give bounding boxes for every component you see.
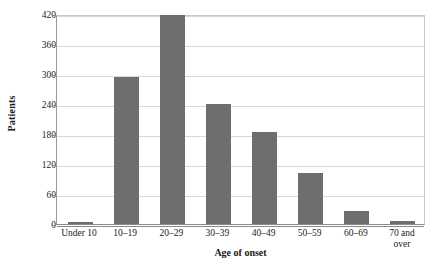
bar[interactable] bbox=[344, 211, 369, 225]
gridline bbox=[57, 226, 424, 227]
y-axis-title-label: Patients bbox=[6, 95, 17, 131]
bar[interactable] bbox=[390, 221, 415, 225]
bar[interactable] bbox=[68, 222, 93, 225]
plot-area bbox=[56, 15, 425, 225]
bar[interactable] bbox=[160, 15, 185, 224]
bars-layer bbox=[57, 16, 424, 224]
y-axis-title: Patients bbox=[0, 0, 22, 226]
bar[interactable] bbox=[252, 132, 277, 224]
bar-chart: Patients 060120180240300360420 Under 101… bbox=[0, 0, 438, 265]
x-axis-title: Age of onset bbox=[56, 247, 425, 258]
bar[interactable] bbox=[206, 104, 231, 225]
bar[interactable] bbox=[114, 77, 139, 225]
bar[interactable] bbox=[298, 173, 323, 224]
y-tick-mark bbox=[52, 225, 56, 226]
